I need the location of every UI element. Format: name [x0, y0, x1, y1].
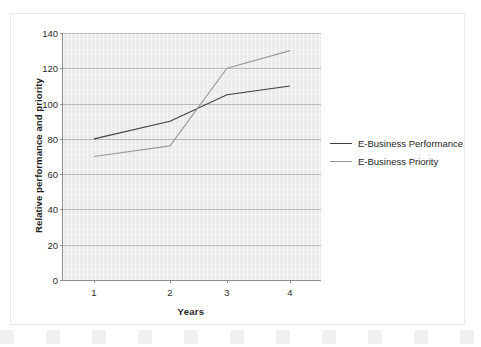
x-tick-label: 1 — [91, 287, 96, 298]
y-axis-title: Relative performance and priority — [33, 41, 44, 271]
y-tick-label: 80 — [47, 133, 58, 144]
chart-legend: E-Business PerformanceE-Business Priorit… — [330, 135, 460, 171]
legend-item[interactable]: E-Business Priority — [330, 153, 460, 169]
y-tick-label: 100 — [42, 98, 58, 109]
legend-label: E-Business Performance — [358, 138, 463, 149]
y-tick-label: 20 — [47, 239, 58, 250]
x-tick-mark — [94, 280, 95, 283]
series-lines — [63, 33, 321, 280]
y-tick-mark — [60, 280, 63, 281]
legend-line-swatch — [330, 161, 352, 162]
series-line — [94, 86, 290, 139]
legend-item[interactable]: E-Business Performance — [330, 135, 460, 151]
y-tick-label: 140 — [42, 28, 58, 39]
x-tick-mark — [290, 280, 291, 283]
legend-line-swatch — [330, 143, 352, 144]
y-tick-label: 40 — [47, 204, 58, 215]
plot-area: 020406080100120140 1234 — [62, 33, 321, 281]
y-tick-label: 60 — [47, 169, 58, 180]
x-tick-mark — [227, 280, 228, 283]
x-tick-label: 2 — [167, 287, 172, 298]
series-line — [94, 51, 290, 157]
y-tick-label: 0 — [53, 275, 58, 286]
line-chart: Relative performance and priority 020406… — [0, 0, 481, 347]
x-axis-title: Years — [62, 306, 320, 317]
y-tick-label: 120 — [42, 63, 58, 74]
x-tick-mark — [170, 280, 171, 283]
legend-label: E-Business Priority — [358, 156, 438, 167]
x-tick-label: 4 — [287, 287, 292, 298]
x-tick-label: 3 — [224, 287, 229, 298]
